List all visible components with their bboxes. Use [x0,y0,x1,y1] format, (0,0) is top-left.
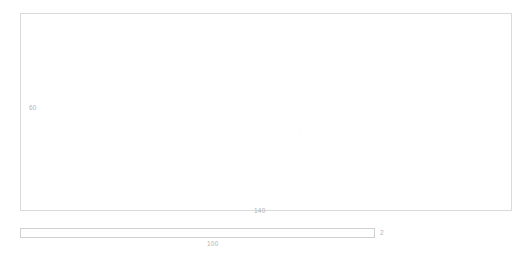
bar-length-dimension-label: 100 [207,241,218,248]
bar-thickness-dimension-label: 2 [380,230,384,237]
plate-height-dimension-label: 60 [29,105,37,112]
drawing-canvas: 60 140 100 2 [0,0,530,254]
thin-bar-outline [20,228,375,238]
plate-width-dimension-label: 140 [254,208,265,215]
centre-tick-mark [300,127,301,136]
main-plate-outline [20,13,512,211]
